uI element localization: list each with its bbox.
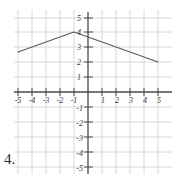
y-tick-label--1: -1	[76, 104, 83, 113]
x-tick-label--5: -5	[15, 96, 22, 105]
x-tick-label--3: -3	[43, 96, 50, 105]
y-axis-tick-labels: 5 4 3 2 1 -1 -2 -3 -4 -5	[76, 14, 83, 173]
x-tick-label-5: 5	[157, 96, 161, 105]
y-tick-label-5: 5	[77, 14, 81, 23]
graph-svg: -5 -4 -3 -2 -1 1 2 3 4 5 5 4 3 2 1 -1 -2…	[0, 0, 180, 176]
x-tick-label-3: 3	[128, 96, 133, 105]
y-tick-label--3: -3	[76, 134, 83, 143]
y-tick-label-3: 3	[76, 43, 81, 52]
worksheet-page: -5 -4 -3 -2 -1 1 2 3 4 5 5 4 3 2 1 -1 -2…	[0, 0, 180, 176]
y-tick-label-1: 1	[77, 73, 81, 82]
y-tick-label-4: 4	[77, 28, 81, 37]
x-tick-label-1: 1	[101, 96, 105, 105]
y-tick-label-2: 2	[77, 58, 81, 67]
x-tick-label--4: -4	[29, 96, 36, 105]
y-tick-label--4: -4	[76, 149, 83, 158]
x-tick-label-4: 4	[143, 96, 147, 105]
x-tick-label-2: 2	[115, 96, 119, 105]
x-tick-label--2: -2	[57, 96, 64, 105]
problem-number-label: 4.	[4, 152, 15, 167]
y-tick-label--5: -5	[76, 164, 83, 173]
y-tick-label--2: -2	[76, 119, 83, 128]
coordinate-plane: -5 -4 -3 -2 -1 1 2 3 4 5 5 4 3 2 1 -1 -2…	[0, 0, 180, 176]
